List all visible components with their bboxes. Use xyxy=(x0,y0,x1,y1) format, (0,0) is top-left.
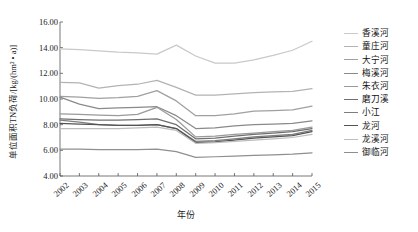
legend-color-swatch xyxy=(344,33,358,34)
legend-item-label: 大宁河 xyxy=(362,56,389,65)
x-axis-tick-label: 2009 xyxy=(182,180,207,203)
x-axis-title: 年份 xyxy=(60,208,312,221)
legend-item[interactable]: 龙溪河 xyxy=(344,133,418,146)
legend-color-swatch xyxy=(344,139,358,140)
legend-color-swatch xyxy=(344,59,358,60)
x-axis-tick-label: 2011 xyxy=(221,180,246,203)
x-axis-tick-label: 2015 xyxy=(298,180,323,203)
legend-item[interactable]: 大宁河 xyxy=(344,53,418,66)
legend-item[interactable]: 龙河 xyxy=(344,119,418,132)
x-axis-tick-label: 2004 xyxy=(85,180,110,203)
legend-item[interactable]: 香溪河 xyxy=(344,27,418,40)
legend-color-swatch xyxy=(344,152,358,153)
legend-item[interactable]: 朱衣河 xyxy=(344,80,418,93)
legend-item-label: 朱衣河 xyxy=(362,82,389,91)
x-axis-tick-label: 2002 xyxy=(46,180,71,203)
x-axis-tick-label: 2005 xyxy=(104,180,129,203)
legend-item-label: 龙河 xyxy=(362,122,380,131)
legend-item-label: 御临河 xyxy=(362,148,389,157)
x-axis-tick-label: 2008 xyxy=(162,180,187,203)
legend-item[interactable]: 小江 xyxy=(344,106,418,119)
legend-item[interactable]: 磨刀溪 xyxy=(344,93,418,106)
legend-item-label: 磨刀溪 xyxy=(362,95,389,104)
legend-item-label: 小江 xyxy=(362,108,380,117)
x-axis-tick-label: 2007 xyxy=(143,180,168,203)
chart-figure: 单位面积TN负荷/[kg/(hm² • a)] 4.006.008.0010.0… xyxy=(0,0,418,232)
legend-color-swatch xyxy=(344,86,358,87)
legend-color-swatch xyxy=(344,46,358,47)
legend-item[interactable]: 梅溪河 xyxy=(344,67,418,80)
legend-color-swatch xyxy=(344,112,358,113)
x-axis-tick-label: 2010 xyxy=(201,180,226,203)
x-axis-tick-label: 2012 xyxy=(240,180,265,203)
x-axis-tick-label: 2006 xyxy=(124,180,149,203)
legend-item-label: 龙溪河 xyxy=(362,135,389,144)
legend-item[interactable]: 童庄河 xyxy=(344,40,418,53)
legend-item-label: 童庄河 xyxy=(362,42,389,51)
legend-color-swatch xyxy=(344,125,358,126)
x-axis-tick-label: 2003 xyxy=(66,180,91,203)
chart-legend: 香溪河童庄河大宁河梅溪河朱衣河磨刀溪小江龙河龙溪河御临河 xyxy=(344,27,418,159)
legend-item-label: 香溪河 xyxy=(362,29,389,38)
legend-item[interactable]: 御临河 xyxy=(344,146,418,159)
legend-item-label: 梅溪河 xyxy=(362,69,389,78)
x-axis-tick-label: 2014 xyxy=(279,180,304,203)
x-axis-tick-label: 2013 xyxy=(259,180,284,203)
legend-color-swatch xyxy=(344,99,358,100)
legend-color-swatch xyxy=(344,73,358,74)
